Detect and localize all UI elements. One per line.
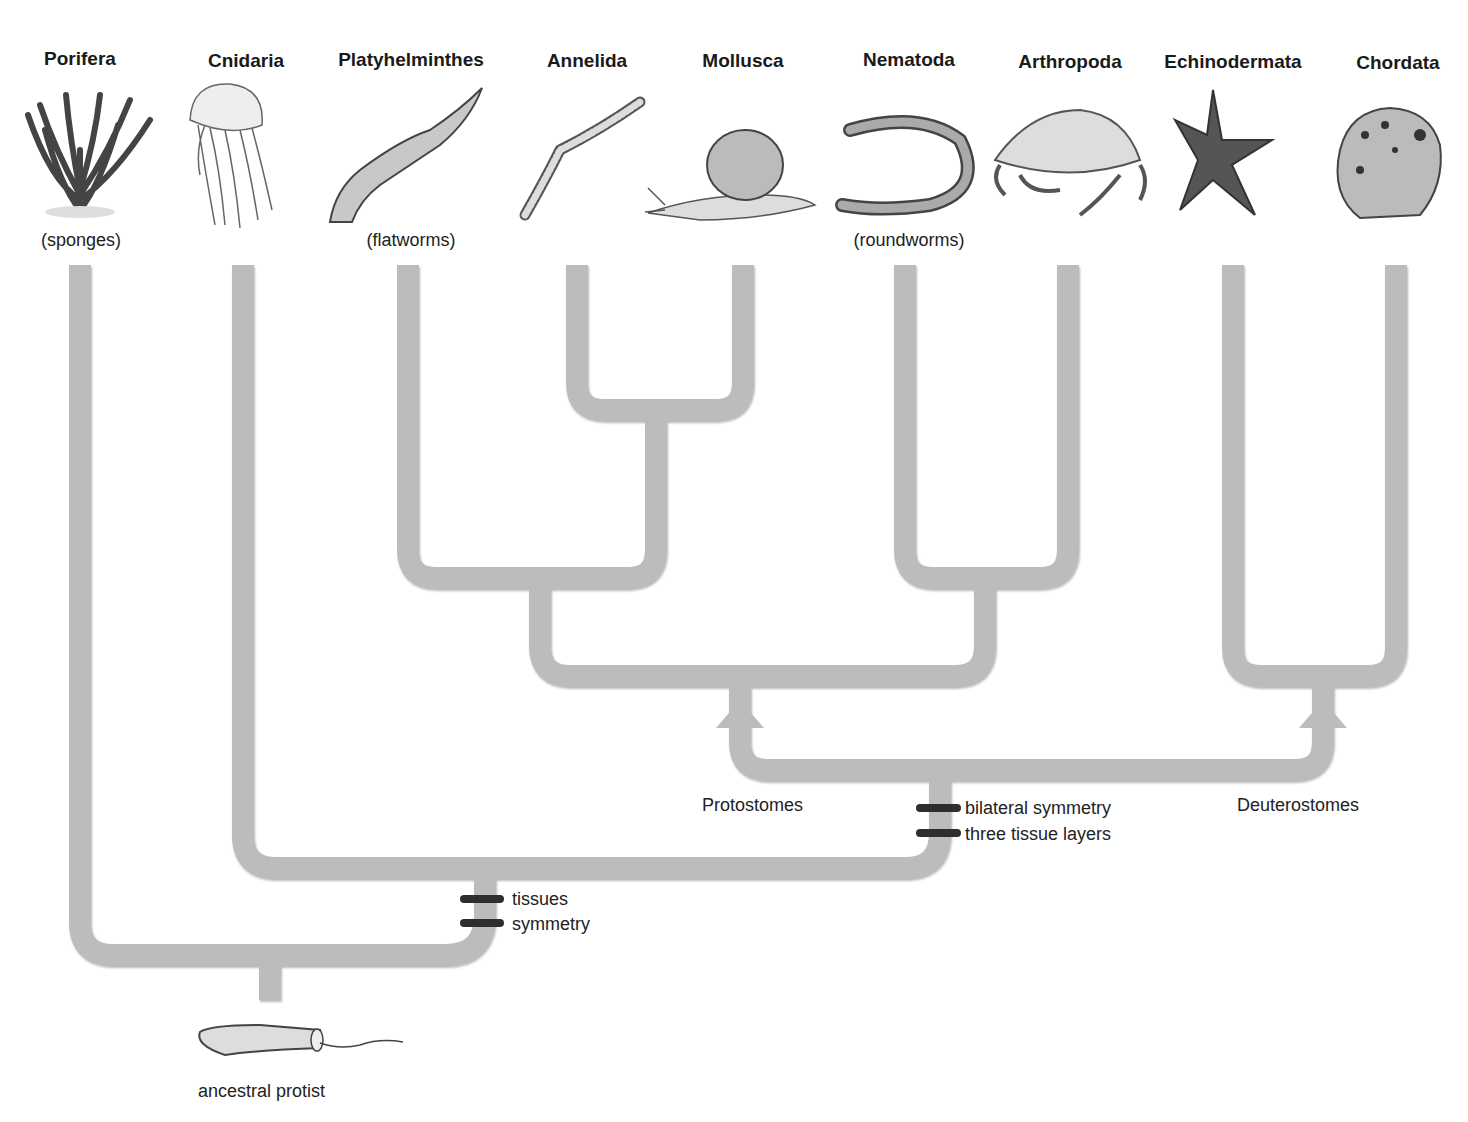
group-label-protostomes: Protostomes	[702, 795, 803, 816]
arrow-up-deuterostomes	[1299, 700, 1347, 728]
arrow-up-protostomes	[716, 700, 764, 728]
phylum-label-echinodermata: Echinodermata	[1164, 51, 1301, 73]
trait-label-bilateral-symmetry: bilateral symmetry	[965, 798, 1111, 819]
trait-label-three-tissue-layers: three tissue layers	[965, 824, 1111, 845]
branch-porifera	[80, 265, 485, 955]
phylogenetic-tree	[0, 0, 1468, 1122]
group-label-deuterostomes: Deuterostomes	[1237, 795, 1359, 816]
phylum-label-arthropoda: Arthropoda	[1018, 51, 1121, 73]
roundworm-icon	[842, 122, 968, 209]
snail-icon	[645, 130, 815, 220]
phylum-label-platyhelminthes: Platyhelminthes	[338, 49, 484, 71]
branch-deuterostomes	[1233, 265, 1396, 676]
common-name-sponges: (sponges)	[41, 230, 121, 251]
segmented-worm-icon	[525, 102, 640, 215]
phylum-label-annelida: Annelida	[547, 50, 627, 72]
trait-label-symmetry: symmetry	[512, 914, 590, 935]
branch-bilateria	[740, 720, 1323, 770]
crab-icon	[995, 110, 1145, 215]
flatworm-icon	[330, 88, 482, 222]
trait-label-tissues: tissues	[512, 889, 568, 910]
protist-icon	[199, 1025, 403, 1055]
sponge-icon	[28, 95, 150, 218]
branch-protostomes	[540, 585, 985, 676]
phylum-label-nematoda: Nematoda	[863, 49, 955, 71]
phylum-label-porifera: Porifera	[44, 48, 116, 70]
common-name-flatworms: (flatworms)	[367, 230, 456, 251]
phylum-label-chordata: Chordata	[1356, 52, 1439, 74]
frog-icon	[1338, 108, 1441, 218]
branch-spiralia	[408, 265, 656, 578]
phylum-label-cnidaria: Cnidaria	[208, 50, 284, 72]
phylum-label-mollusca: Mollusca	[702, 50, 783, 72]
starfish-icon	[1175, 90, 1272, 215]
common-name-roundworms: (roundworms)	[853, 230, 964, 251]
root-label-ancestral-protist: ancestral protist	[198, 1081, 325, 1102]
jellyfish-icon	[190, 84, 272, 228]
branch-annelida-mollusca	[577, 265, 743, 410]
branch-ecdysozoa	[905, 265, 1068, 578]
